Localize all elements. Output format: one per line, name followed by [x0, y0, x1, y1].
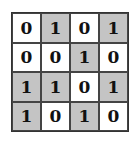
grid-cell-r2c4: 0 — [99, 43, 128, 73]
grid-cell-r3c2: 1 — [41, 72, 70, 102]
grid-cell-r4c3: 1 — [70, 102, 99, 132]
grid-cell-r1c3: 0 — [70, 13, 99, 43]
grid-cell-r2c1: 0 — [12, 43, 41, 73]
grid-cell-r2c2: 0 — [41, 43, 70, 73]
grid-cell-r4c2: 0 — [41, 102, 70, 132]
grid-cell-r1c4: 1 — [99, 13, 128, 43]
grid-cell-r4c1: 1 — [12, 102, 41, 132]
grid-cell-r1c2: 1 — [41, 13, 70, 43]
grid-cell-r4c4: 0 — [99, 102, 128, 132]
grid-cell-r3c4: 1 — [99, 72, 128, 102]
grid-cell-r2c3: 1 — [70, 43, 99, 73]
grid-cell-r3c1: 1 — [12, 72, 41, 102]
binary-grid: 0 1 0 1 0 0 1 0 1 1 0 1 1 0 1 0 — [11, 12, 129, 132]
grid-cell-r3c3: 0 — [70, 72, 99, 102]
grid-cell-r1c1: 0 — [12, 13, 41, 43]
